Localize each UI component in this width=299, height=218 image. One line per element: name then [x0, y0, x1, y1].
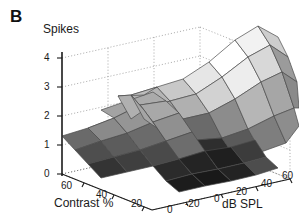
y-tick-0: 0 — [214, 193, 220, 204]
figure-panel-b: B Spikes Contrast % dB SPL — [0, 0, 299, 218]
x-tick-0: 0 — [167, 204, 173, 215]
y-tick-60: 60 — [282, 170, 293, 181]
z-tick-1: 1 — [44, 139, 50, 150]
x-tick-20: 20 — [131, 198, 142, 209]
x-tick-60: 60 — [61, 180, 72, 191]
surface-plot-svg — [0, 0, 299, 218]
y-tick-minus20: -20 — [185, 198, 199, 209]
z-tick-2: 2 — [44, 110, 50, 121]
z-tick-3: 3 — [44, 81, 50, 92]
z-axis — [57, 52, 62, 176]
surface-mesh — [62, 26, 299, 192]
y-tick-20: 20 — [236, 186, 247, 197]
x-tick-40: 40 — [96, 189, 107, 200]
y-tick-40: 40 — [261, 178, 272, 189]
z-tick-4: 4 — [44, 52, 50, 63]
z-tick-0: 0 — [44, 168, 50, 179]
